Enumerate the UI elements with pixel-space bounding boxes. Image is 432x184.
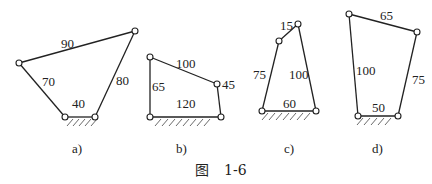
- label-c-ground: 60: [283, 96, 296, 111]
- caption-d: d): [372, 141, 383, 156]
- joint-icon: [295, 21, 301, 27]
- figure-caption-prefix: 图: [195, 162, 209, 178]
- link-a-right: [95, 31, 135, 117]
- joint-icon: [132, 28, 138, 34]
- linkage-b: 100 65 45 120 b): [147, 54, 235, 156]
- label-c-right: 100: [289, 67, 309, 82]
- linkage-d: 65 100 75 50 d): [346, 8, 425, 156]
- label-b-top: 100: [176, 56, 196, 71]
- link-b-right: [217, 84, 221, 117]
- caption-b: b): [176, 141, 187, 156]
- joint-icon: [62, 114, 68, 120]
- joint-icon: [259, 108, 265, 114]
- joint-icon: [355, 113, 361, 119]
- joint-icon: [276, 38, 282, 44]
- label-b-left: 65: [152, 79, 165, 94]
- joint-icon: [147, 54, 153, 60]
- label-d-ground: 50: [372, 100, 385, 115]
- joint-icon: [313, 108, 319, 114]
- label-a-ground: 40: [72, 96, 85, 111]
- linkage-a: 90 70 80 40 a): [16, 28, 138, 156]
- link-a-top: [19, 31, 135, 63]
- joint-icon: [147, 114, 153, 120]
- figure-caption-number: 1-6: [224, 162, 247, 178]
- linkage-c: 15 75 100 60 c): [253, 18, 319, 156]
- ground-hatch-a: [67, 119, 97, 126]
- ground-hatch-d: [357, 118, 391, 125]
- label-a-top: 90: [61, 36, 74, 51]
- joint-icon: [214, 81, 220, 87]
- joint-icon: [395, 113, 401, 119]
- label-c-top: 15: [280, 18, 293, 33]
- label-b-right: 45: [222, 77, 235, 92]
- label-a-right: 80: [116, 73, 129, 88]
- joint-icon: [346, 11, 352, 17]
- label-d-left: 100: [356, 63, 376, 78]
- label-d-right: 75: [412, 72, 425, 87]
- joint-icon: [92, 114, 98, 120]
- link-a-left: [19, 63, 65, 117]
- label-c-left: 75: [253, 67, 266, 82]
- ground-hatch-c: [262, 113, 310, 120]
- caption-a: a): [72, 141, 82, 156]
- ground-hatch-b: [155, 119, 210, 126]
- label-d-top: 65: [380, 8, 393, 23]
- four-bar-linkage-figure: 90 70 80 40 a) 100 65 45 120 b): [0, 0, 432, 184]
- joint-icon: [218, 114, 224, 120]
- caption-c: c): [284, 141, 294, 156]
- label-b-ground: 120: [176, 96, 196, 111]
- joint-icon: [16, 60, 22, 66]
- label-a-left: 70: [42, 74, 55, 89]
- joint-icon: [414, 29, 420, 35]
